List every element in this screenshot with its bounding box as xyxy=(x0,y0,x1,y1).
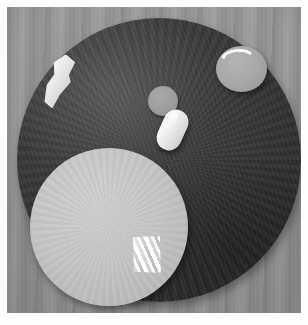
photograph xyxy=(7,7,301,313)
large-light-disc xyxy=(30,148,188,306)
white-crescent-object xyxy=(220,47,254,67)
striped-translucent-object xyxy=(126,232,166,277)
white-crescent-body xyxy=(220,47,254,67)
image-caption: Objects arranged on a dark round mat on … xyxy=(0,0,1,1)
striped-object-highlight xyxy=(126,232,166,277)
disc-texture xyxy=(30,148,188,306)
photo-frame: Objects arranged on a dark round mat on … xyxy=(0,0,308,325)
